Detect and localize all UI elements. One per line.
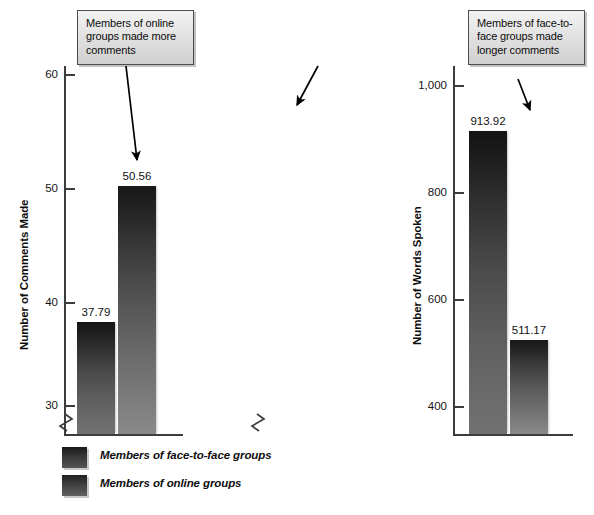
- y-tick-label-30: 30: [22, 399, 58, 411]
- chart-panel-brief-statements: Members of online groups made more brief…: [394, 0, 594, 440]
- y-tick-label-60: 60: [22, 68, 58, 80]
- bar-value-face-to-face: 37.79: [72, 306, 120, 318]
- bar-face-to-face: [77, 322, 115, 434]
- y-axis-line: [64, 66, 66, 436]
- chart-panel-words-spoken: Members of face-to-face groups made long…: [197, 0, 395, 440]
- chart-panel-comments-made: Members of online groups made more comme…: [0, 0, 198, 440]
- y-tick-60: [66, 74, 75, 76]
- y-tick-30: [66, 405, 75, 407]
- bar-online: [118, 186, 156, 434]
- y-axis-label-comments-made: Number of Comments Made: [18, 200, 30, 350]
- x-axis-line: [64, 434, 183, 436]
- y-tick-label-50: 50: [22, 182, 58, 194]
- legend: Members of face-to-face groups Members o…: [62, 446, 392, 510]
- legend-swatch-online: [62, 475, 87, 496]
- y-tick-50: [66, 188, 75, 190]
- legend-label-online: Members of online groups: [100, 477, 241, 489]
- legend-swatch-face-to-face: [62, 447, 87, 468]
- bar-value-online: 50.56: [113, 170, 161, 182]
- y-tick-40: [66, 302, 75, 304]
- y-tick-label-40: 40: [22, 296, 58, 308]
- legend-label-face-to-face: Members of face-to-face groups: [100, 449, 271, 461]
- callout-comments-made: Members of online groups made more comme…: [77, 10, 194, 65]
- figure-canvas: Members of online groups made more comme…: [0, 0, 594, 515]
